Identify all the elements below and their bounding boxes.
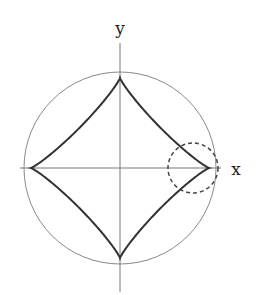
- x-axis-label: x: [231, 159, 241, 179]
- y-axis-label: y: [114, 18, 125, 38]
- diagram-canvas: x y: [0, 0, 265, 295]
